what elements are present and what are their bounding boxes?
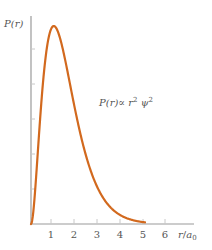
x-axis-label: r/a0: [178, 229, 197, 242]
x-tick-label-6: 6: [162, 229, 168, 240]
radial-probability-chart: 1 2 3 4 5 6 r/a0 P(r) P(r)∝ r2 ψ2: [0, 0, 212, 250]
x-tick-label-5: 5: [140, 229, 146, 240]
curve-annotation: P(r)∝ r2 ψ2: [98, 96, 153, 108]
x-tick-label-3: 3: [94, 229, 100, 240]
y-axis-label: P(r): [3, 18, 23, 29]
probability-curve: [31, 26, 145, 224]
x-tick-label-1: 1: [48, 229, 54, 240]
x-tick-label-2: 2: [71, 229, 77, 240]
x-tick-label-4: 4: [117, 229, 123, 240]
x-axis-ticks: [51, 219, 165, 224]
